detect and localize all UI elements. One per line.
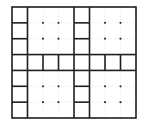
vertex-dot <box>104 22 106 24</box>
vertex-dot <box>119 85 121 87</box>
vertex-dot <box>104 85 106 87</box>
vertex-dots <box>42 22 122 103</box>
vertex-dot <box>104 38 106 40</box>
vertex-dot <box>42 85 44 87</box>
vertex-dot <box>104 101 106 103</box>
vertex-dot <box>119 38 121 40</box>
vertex-dot <box>42 101 44 103</box>
vertex-dot <box>57 22 59 24</box>
vertex-dot <box>57 85 59 87</box>
vertex-dot <box>42 22 44 24</box>
vertex-dot <box>57 38 59 40</box>
grid-diagram <box>0 0 147 126</box>
vertex-dot <box>119 101 121 103</box>
grid-lines <box>12 7 136 118</box>
vertex-dot <box>57 101 59 103</box>
vertex-dot <box>119 22 121 24</box>
vertex-dot <box>42 38 44 40</box>
